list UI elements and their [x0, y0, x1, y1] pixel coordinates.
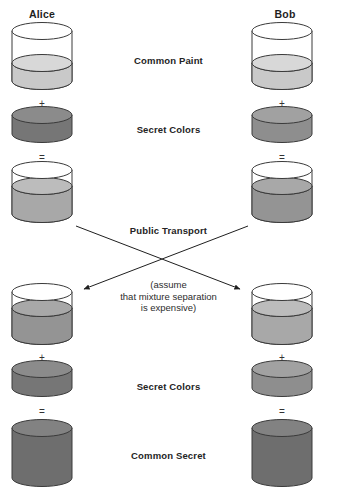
operator-equals-alice-1: = [22, 153, 62, 163]
diagram-canvas: Alice Bob + = + = + = + = Common Paint S… [0, 0, 337, 495]
operator-plus-bob-1: + [262, 99, 302, 109]
note-line-3: is expensive) [0, 302, 337, 314]
note-line-2: that mixture separation [0, 291, 337, 303]
diagram-vectors [0, 0, 337, 495]
operator-plus-bob-2: + [262, 353, 302, 363]
operator-equals-alice-2: = [22, 407, 62, 417]
note-line-1: (assume [0, 279, 337, 291]
bob-mixed-paint-vessel [252, 162, 312, 223]
label-secret-colors-bottom: Secret Colors [0, 381, 337, 392]
label-common-secret: Common Secret [0, 450, 337, 461]
operator-plus-alice-2: + [22, 353, 62, 363]
label-public-transport: Public Transport [0, 225, 337, 236]
party-label-alice: Alice [2, 8, 82, 20]
operator-equals-bob-2: = [262, 407, 302, 417]
operator-equals-bob-1: = [262, 153, 302, 163]
label-common-paint: Common Paint [0, 55, 337, 66]
alice-mixed-paint-vessel [12, 162, 72, 223]
label-secret-colors-top: Secret Colors [0, 124, 337, 135]
operator-plus-alice-1: + [22, 99, 62, 109]
party-label-bob: Bob [245, 8, 325, 20]
note-mixture-separation: (assume that mixture separation is expen… [0, 279, 337, 314]
